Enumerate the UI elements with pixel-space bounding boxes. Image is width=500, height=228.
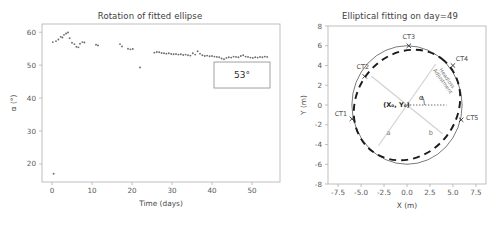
right-ytick-label: 0	[317, 101, 322, 110]
scatter-point	[249, 57, 251, 59]
scatter-point	[77, 46, 79, 48]
scatter-point	[177, 54, 179, 56]
scatter-point	[209, 55, 211, 57]
left-xtick-label: 30	[167, 186, 177, 195]
right-xtick-label: -2.5	[377, 188, 391, 197]
scatter-point	[53, 173, 55, 175]
alpha-angle-label: α	[419, 94, 424, 102]
scatter-point	[129, 48, 131, 50]
scatter-point	[65, 33, 67, 35]
scatter-point	[194, 54, 196, 56]
scatter-point	[119, 43, 121, 45]
right-xtick-label: -7.5	[331, 188, 345, 197]
left-yaxis-label: α (°)	[9, 95, 18, 112]
left-xaxis-label: Time (days)	[138, 199, 183, 208]
scatter-point	[139, 67, 141, 69]
scatter-point	[185, 54, 187, 56]
scatter-point	[189, 55, 191, 57]
ct-label-ct1: CT1	[335, 110, 347, 118]
ct-label-ct4: CT4	[456, 55, 468, 63]
ct-label-ct5: CT5	[466, 114, 478, 122]
scatter-point	[67, 32, 69, 34]
ellipse-center-label: (X₀, Y₀)	[383, 101, 409, 109]
scatter-point	[240, 55, 242, 57]
scatter-point	[121, 45, 123, 47]
right-ytick-label: -2	[315, 120, 322, 129]
scatter-point	[254, 56, 256, 58]
scatter-point	[71, 42, 73, 44]
right-geometry: (X₀, Y₀)αabHeadlossAdjustment	[332, 28, 482, 181]
left-data-points	[52, 32, 268, 175]
scatter-point	[153, 52, 155, 54]
left-xtick-label: 40	[207, 186, 217, 195]
annotation-value: 53°	[234, 70, 250, 80]
scatter-point	[199, 53, 201, 55]
right-xtick-label: 7.5	[470, 188, 481, 197]
scatter-point	[79, 43, 81, 45]
right-chart-svg: -7.5-5.0-2.50.02.55.07.5-8-6-4-202468 (X…	[300, 0, 500, 228]
left-annotation: 53°	[214, 62, 270, 88]
left-ytick-label: 30	[27, 127, 37, 136]
scatter-point	[180, 53, 182, 55]
scatter-point	[156, 51, 158, 53]
scatter-point	[57, 39, 59, 41]
left-ytick-label: 40	[27, 94, 37, 103]
scatter-point	[197, 50, 199, 52]
right-ytick-label: -4	[315, 140, 323, 149]
headloss-adjustment-annotation: HeadlossAdjustment	[431, 64, 458, 95]
scatter-point	[170, 53, 172, 55]
scatter-point	[192, 52, 194, 54]
scatter-point	[97, 44, 99, 46]
scatter-point	[95, 44, 97, 46]
scatter-point	[81, 41, 83, 43]
scatter-point	[187, 54, 189, 56]
scatter-point	[247, 56, 249, 58]
scatter-point	[213, 56, 215, 58]
right-ytick-label: -6	[315, 160, 323, 169]
scatter-point	[165, 53, 167, 55]
left-chart-svg: 010203040502030405060 53° Time (days) α …	[0, 0, 300, 228]
right-ytick-label: 8	[317, 22, 322, 31]
scatter-point	[73, 43, 75, 45]
scatter-point	[132, 48, 134, 50]
scatter-point	[75, 46, 77, 48]
scatter-point	[69, 37, 71, 39]
scatter-point	[257, 57, 259, 59]
scatter-point	[158, 51, 160, 53]
scatter-point	[163, 52, 165, 54]
scatter-point	[127, 48, 129, 50]
scatter-point	[52, 41, 54, 43]
scatter-point	[259, 56, 261, 58]
scatter-point	[242, 54, 244, 56]
scatter-point	[225, 57, 227, 59]
scatter-point	[161, 52, 163, 54]
scatter-point	[175, 53, 177, 55]
right-xtick-label: -5.0	[354, 188, 368, 197]
scatter-point	[228, 56, 230, 58]
left-ytick-label: 20	[27, 159, 37, 168]
left-chart-title: Rotation of fitted ellipse	[0, 11, 300, 21]
right-ytick-label: 4	[317, 61, 322, 70]
left-xtick-label: 10	[87, 186, 97, 195]
scatter-point	[266, 56, 268, 58]
right-xtick-label: 5.0	[447, 188, 459, 197]
semi-major-axis-label: a	[387, 129, 391, 137]
scatter-point	[245, 56, 247, 58]
scatter-point	[211, 55, 213, 57]
right-ytick-label: -8	[315, 180, 323, 189]
panel-rotation-scatter: Rotation of fitted ellipse 0102030405020…	[0, 0, 300, 228]
scatter-point	[204, 55, 206, 57]
scatter-point	[182, 54, 184, 56]
left-xtick-label: 50	[247, 186, 257, 195]
left-xtick-label: 20	[127, 186, 137, 195]
scatter-point	[223, 58, 225, 60]
panel-elliptical-fitting: Elliptical fitting on day=49 -7.5-5.0-2.…	[300, 0, 500, 228]
right-xaxis-label: X (m)	[397, 201, 417, 210]
scatter-point	[61, 37, 63, 39]
left-ytick-label: 50	[27, 61, 37, 70]
ct-label-ct2: CT2	[357, 63, 369, 71]
left-tick-group: 010203040502030405060	[27, 28, 257, 195]
scatter-point	[173, 53, 175, 55]
scatter-point	[218, 56, 220, 58]
right-yaxis-label: Y (m)	[299, 95, 308, 116]
